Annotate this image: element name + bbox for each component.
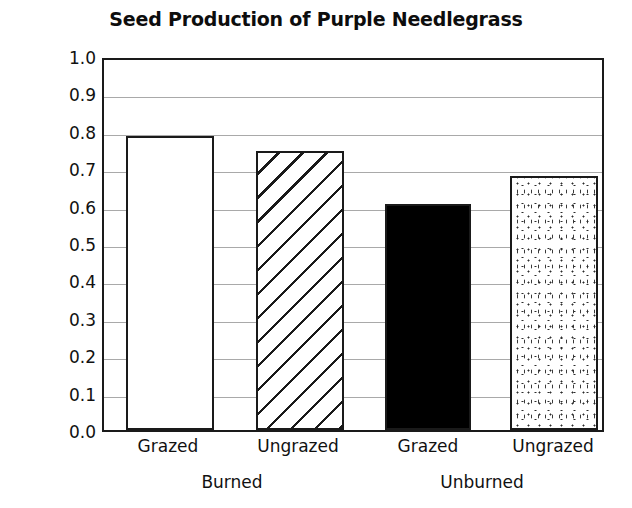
y-tick-label: 0.8	[42, 123, 96, 143]
y-tick-label: 0.4	[42, 272, 96, 292]
y-tick-label: 0.5	[42, 235, 96, 255]
y-tick-label: 0.9	[42, 85, 96, 105]
y-tick-label: 0.6	[42, 198, 96, 218]
x-tick-label: Grazed	[368, 436, 488, 456]
bar-unburned-ungrazed	[510, 176, 598, 430]
x-tick-label: Ungrazed	[228, 436, 368, 456]
x-axis-tick-labels: Grazed Ungrazed Grazed Ungrazed	[102, 436, 604, 466]
x-axis-group-labels: Burned Unburned	[102, 472, 604, 502]
chart-figure: Seed Production of Purple Needlegrass Se…	[0, 0, 632, 508]
bar-burned-ungrazed	[256, 151, 344, 430]
x-group-label-burned: Burned	[142, 472, 322, 492]
plot-area	[102, 58, 604, 432]
bar-unburned-grazed	[385, 204, 471, 430]
y-axis-tick-labels: 1.0 0.9 0.8 0.7 0.6 0.5 0.4 0.3 0.2 0.1 …	[34, 58, 96, 432]
y-tick-label: 0.1	[42, 385, 96, 405]
y-tick-label: 1.0	[42, 48, 96, 68]
x-group-label-unburned: Unburned	[392, 472, 572, 492]
x-tick-label: Ungrazed	[484, 436, 622, 456]
gridline	[104, 97, 602, 98]
y-tick-label: 0.2	[42, 347, 96, 367]
y-tick-label: 0.3	[42, 310, 96, 330]
y-tick-label: 0.0	[42, 422, 96, 442]
y-tick-label: 0.7	[42, 160, 96, 180]
page-title: Seed Production of Purple Needlegrass	[0, 8, 632, 30]
x-tick-label: Grazed	[108, 436, 228, 456]
bar-burned-grazed	[126, 136, 214, 430]
